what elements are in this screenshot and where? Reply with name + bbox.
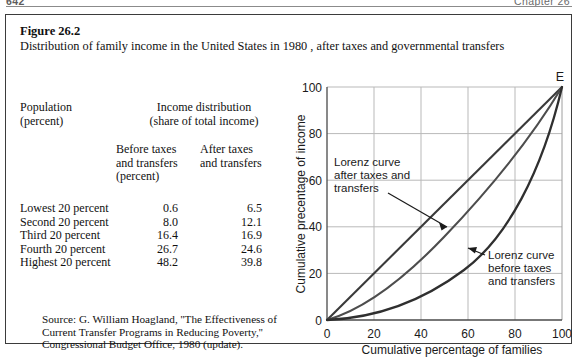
y-axis-title: Cumulative precentage of income [294,114,308,293]
column-header-before-taxes: Before taxes and transfers (percent) [116,143,194,184]
income-header-line1: Income distribution [116,101,292,115]
table-row: Fourth 20 percent 26.7 24.6 [20,242,292,256]
before-header-line3: (percent) [116,170,194,184]
after-header-line2: and transfers [200,157,280,171]
table-row: Highest 20 percent 48.2 39.8 [20,255,292,269]
annotation-before-taxes: Lorenz curve before taxes and transfers [468,247,555,287]
x-axis-tick-labels: 0 20 40 60 80 100 [324,327,573,341]
x-axis-title: Cumulative percentage of families [362,343,543,357]
annotation-before-line2: before taxes [488,262,552,274]
x-tick-40: 40 [414,327,428,341]
chart-svg: 100 80 60 40 20 0 0 20 40 60 80 100 Cumu… [292,67,578,357]
y-tick-40: 40 [309,220,323,234]
source-line-1: Source: G. William Hoagland, ''The Effec… [42,313,287,326]
source-line-2: Current Transfer Programs in Reducing Po… [42,326,287,339]
income-header-line2: (share of total income) [116,115,292,129]
income-distribution-header: Income distribution (share of total inco… [116,101,292,128]
annotation-before-line3: and transfers [488,275,555,287]
figure-number: Figure 26.2 [20,24,80,39]
header-rule [6,6,572,7]
x-tick-100: 100 [552,327,572,341]
annotation-after-taxes: Lorenz curve after taxes and transfers [334,156,447,231]
x-tick-0: 0 [324,327,331,341]
after-header-line1: After taxes [200,143,280,157]
x-tick-60: 60 [461,327,475,341]
annotation-after-line3: transfers [334,182,379,194]
running-head: 642 Chapter 26 [0,0,578,11]
lorenz-curve-chart: 100 80 60 40 20 0 0 20 40 60 80 100 Cumu… [292,67,578,357]
arrowhead-icon [468,247,477,254]
point-label-e: E [556,70,564,84]
row-after: 39.8 [200,255,262,270]
table-row: Lowest 20 percent 0.6 6.5 [20,201,292,215]
table-row: Second 20 percent 8.0 12.1 [20,215,292,229]
table-body: Lowest 20 percent 0.6 6.5 Second 20 perc… [20,201,292,269]
figure-caption: Distribution of family income in the Uni… [20,39,504,54]
annotation-after-line1: Lorenz curve [334,156,400,168]
y-tick-100: 100 [302,81,322,95]
annotation-before-line1: Lorenz curve [488,249,554,261]
row-before: 48.2 [116,255,178,270]
population-header: Population (percent) [20,101,72,128]
y-tick-20: 20 [309,267,323,281]
source-note: Source: G. William Hoagland, ''The Effec… [42,313,287,351]
column-header-after-taxes: After taxes and transfers [200,143,280,170]
population-header-line1: Population [20,101,72,115]
y-tick-80: 80 [309,127,323,141]
row-label: Highest 20 percent [20,255,111,270]
source-line-3: Congressional Budget Office, 1980 (updat… [42,338,287,351]
x-tick-20: 20 [367,327,381,341]
population-header-line2: (percent) [20,115,72,129]
before-header-line2: and transfers [116,157,194,171]
before-header-line1: Before taxes [116,143,194,157]
y-tick-0: 0 [315,314,322,328]
figure-container: Figure 26.2 Distribution of family incom… [5,14,572,344]
y-tick-60: 60 [309,174,323,188]
annotation-after-line2: after taxes and [334,169,410,181]
table-row: Third 20 percent 16.4 16.9 [20,228,292,242]
x-tick-80: 80 [508,327,522,341]
